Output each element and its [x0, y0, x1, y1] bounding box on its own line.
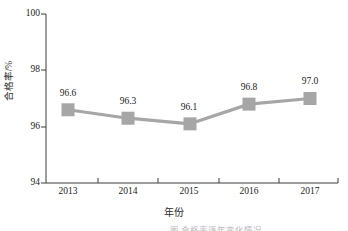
- data-label-2017: 97.0: [290, 76, 330, 86]
- data-point-2015: [184, 117, 197, 130]
- data-point-2014: [122, 112, 135, 125]
- data-label-2013: 96.6: [48, 88, 88, 98]
- line-chart: 合格率/% 100 98 96 94 96.6 96.3 96.1 96.8 9…: [0, 0, 348, 231]
- x-tick-label-2014: 2014: [108, 186, 148, 196]
- x-tick-label-2015: 2015: [169, 186, 209, 196]
- x-tick-label-2017: 2017: [290, 186, 330, 196]
- x-tick-label-2016: 2016: [229, 186, 269, 196]
- x-tick-label-2013: 2013: [48, 186, 88, 196]
- x-axis-title: 年份: [0, 204, 348, 219]
- figure-caption: 图 合格率逐年变化情况: [170, 223, 348, 231]
- data-label-2014: 96.3: [108, 96, 148, 106]
- data-point-2013: [62, 103, 75, 116]
- data-label-2015: 96.1: [169, 102, 209, 112]
- data-point-2016: [243, 98, 256, 111]
- plot-area: [0, 0, 348, 231]
- data-point-2017: [304, 92, 317, 105]
- data-label-2016: 96.8: [229, 82, 269, 92]
